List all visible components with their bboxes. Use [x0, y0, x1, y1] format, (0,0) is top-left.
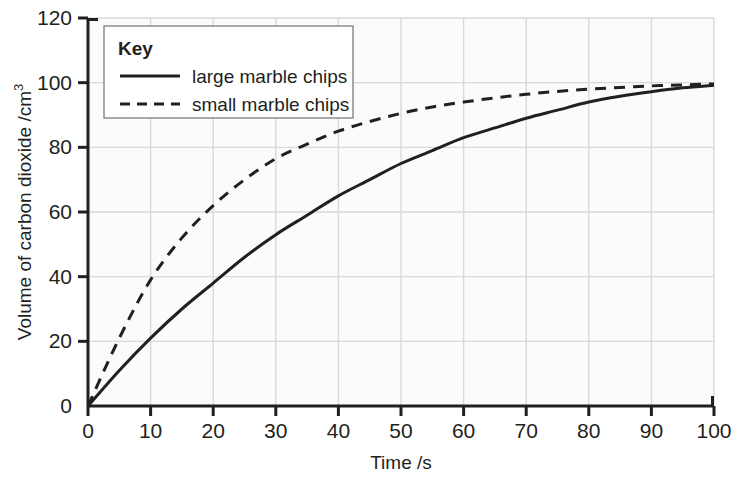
tick-label-x-50: 50 — [389, 419, 412, 442]
tick-label-x-20: 20 — [202, 419, 225, 442]
tick-label-x-70: 70 — [515, 419, 538, 442]
tick-label-y-60: 60 — [49, 200, 72, 223]
tick-label-x-0: 0 — [82, 419, 94, 442]
tick-label-y-120: 120 — [37, 6, 72, 29]
legend-title: Key — [118, 38, 153, 59]
tick-label-x-10: 10 — [139, 419, 162, 442]
tick-label-x-60: 60 — [452, 419, 475, 442]
tick-label-x-100: 100 — [696, 419, 731, 442]
tick-label-y-40: 40 — [49, 265, 72, 288]
y-axis-title-base: Volume of carbon dioxide /cm — [14, 91, 35, 340]
legend-item-label-large-marble-chips[interactable]: large marble chips — [192, 66, 347, 87]
chart-figure: 0102030405060708090100 020406080100120 T… — [0, 0, 737, 481]
y-axis-tick-labels: 020406080100120 — [37, 6, 72, 417]
y-axis-title-group: Volume of carbon dioxide /cm3 — [11, 84, 35, 340]
x-axis-title: Time /s — [370, 452, 432, 473]
x-axis-tick-labels: 0102030405060708090100 — [82, 419, 731, 442]
tick-label-y-0: 0 — [60, 394, 72, 417]
y-axis-title-superscript: 3 — [11, 84, 26, 91]
tick-label-x-80: 80 — [577, 419, 600, 442]
rate-of-reaction-line-chart: 0102030405060708090100 020406080100120 T… — [0, 0, 737, 481]
tick-label-x-40: 40 — [327, 419, 350, 442]
tick-label-x-90: 90 — [640, 419, 663, 442]
tick-label-y-20: 20 — [49, 329, 72, 352]
y-axis-title: Volume of carbon dioxide /cm3 — [11, 84, 35, 340]
tick-label-x-30: 30 — [264, 419, 287, 442]
tick-label-y-100: 100 — [37, 71, 72, 94]
tick-label-y-80: 80 — [49, 135, 72, 158]
legend-item-label-small-marble-chips[interactable]: small marble chips — [192, 94, 349, 115]
legend[interactable]: Key large marble chips small marble chip… — [104, 26, 353, 118]
